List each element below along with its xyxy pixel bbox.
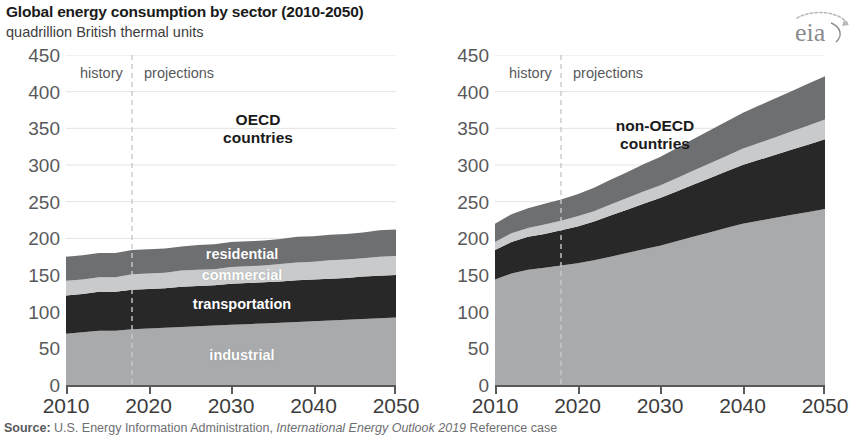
panel-title-line2: countries xyxy=(616,135,694,153)
x-tick-mark xyxy=(578,385,580,394)
x-tick-label: 2040 xyxy=(290,395,337,416)
source-publication: International Energy Outlook 2019 xyxy=(276,421,466,435)
y-tick-label: 50 xyxy=(4,339,60,358)
y-tick-label: 300 xyxy=(433,156,489,175)
page-title: Global energy consumption by sector (201… xyxy=(6,3,364,21)
history-label: history xyxy=(80,66,123,81)
y-tick-label: 200 xyxy=(4,229,60,248)
chart-panel-oecd: 050100150200250300350400450 historyproje… xyxy=(0,50,430,395)
chart-page: Global energy consumption by sector (201… xyxy=(0,0,859,442)
x-tick-mark xyxy=(394,385,396,394)
x-tick-label: 2030 xyxy=(637,395,684,416)
x-tick-label: 2050 xyxy=(802,395,849,416)
x-tick-label: 2010 xyxy=(472,395,519,416)
series-label-transportation: transportation xyxy=(193,297,291,312)
y-tick-label: 200 xyxy=(433,229,489,248)
projections-label: projections xyxy=(144,66,214,81)
y-tick-label: 400 xyxy=(4,82,60,101)
x-tick-mark xyxy=(149,385,151,394)
y-tick-label: 150 xyxy=(433,266,489,285)
x-tick-mark xyxy=(495,385,497,394)
plot-area-oecd: historyprojectionsOECDcountriesresidenti… xyxy=(66,55,396,385)
plot-svg-oecd xyxy=(66,55,396,385)
y-tick-label: 150 xyxy=(4,266,60,285)
plot-svg-non-oecd xyxy=(495,55,825,385)
y-tick-label: 400 xyxy=(433,82,489,101)
y-tick-label: 100 xyxy=(433,302,489,321)
x-tick-mark xyxy=(314,385,316,394)
plot-area-non-oecd: historyprojectionsnon-OECDcountries xyxy=(495,55,825,385)
y-tick-label: 100 xyxy=(4,302,60,321)
svg-text:eia: eia xyxy=(795,18,826,47)
y-tick-label: 300 xyxy=(4,156,60,175)
projections-label: projections xyxy=(573,66,643,81)
panel-title-line2: countries xyxy=(223,129,293,147)
panel-title-line1: non-OECD xyxy=(616,117,694,135)
panel-title-oecd: OECDcountries xyxy=(223,111,293,147)
x-tick-label: 2020 xyxy=(125,395,172,416)
y-axis-oecd: 050100150200250300350400450 xyxy=(0,55,60,385)
panel-title-line1: OECD xyxy=(223,111,293,129)
x-tick-mark xyxy=(66,385,68,394)
x-tick-mark xyxy=(231,385,233,394)
y-tick-label: 0 xyxy=(4,376,60,395)
x-tick-label: 2050 xyxy=(373,395,420,416)
y-tick-label: 250 xyxy=(433,192,489,211)
chart-subtitle: quadrillion British thermal units xyxy=(6,24,203,40)
x-tick-label: 2020 xyxy=(554,395,601,416)
y-tick-label: 450 xyxy=(4,46,60,65)
source-body: U.S. Energy Information Administration, xyxy=(51,421,277,435)
source-suffix: Reference case xyxy=(466,421,557,435)
x-tick-label: 2040 xyxy=(719,395,766,416)
eia-logo: eia xyxy=(791,10,853,50)
chart-panel-non-oecd: 050100150200250300350400450 historyproje… xyxy=(429,50,859,395)
x-tick-label: 2030 xyxy=(208,395,255,416)
y-tick-label: 450 xyxy=(433,46,489,65)
history-label: history xyxy=(509,66,552,81)
y-tick-label: 350 xyxy=(433,119,489,138)
y-tick-label: 250 xyxy=(4,192,60,211)
panel-title-non-oecd: non-OECDcountries xyxy=(616,117,694,153)
x-tick-label: 2010 xyxy=(43,395,90,416)
series-label-industrial: industrial xyxy=(209,348,274,363)
x-tick-mark xyxy=(743,385,745,394)
x-tick-mark xyxy=(823,385,825,394)
source-prefix: Source: xyxy=(4,421,51,435)
series-label-commercial: commercial xyxy=(202,268,283,283)
y-tick-label: 0 xyxy=(433,376,489,395)
y-axis-non-oecd: 050100150200250300350400450 xyxy=(429,55,489,385)
x-tick-mark xyxy=(660,385,662,394)
source-note: Source: U.S. Energy Information Administ… xyxy=(4,421,557,435)
series-label-residential: residential xyxy=(206,247,279,262)
y-tick-label: 350 xyxy=(4,119,60,138)
y-tick-label: 50 xyxy=(433,339,489,358)
